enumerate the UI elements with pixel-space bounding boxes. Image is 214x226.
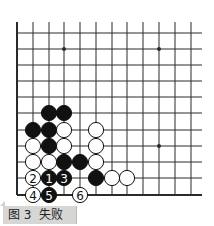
white-stone <box>119 170 134 185</box>
black-stone-move-1: 1 <box>41 170 56 185</box>
black-stone <box>41 105 56 120</box>
star-point <box>157 144 161 148</box>
star-point <box>62 47 66 51</box>
move-number: 1 <box>45 172 53 186</box>
black-stone <box>41 122 56 137</box>
white-stone <box>25 154 40 169</box>
white-stone <box>41 154 56 169</box>
move-number: 2 <box>29 172 37 186</box>
white-stone <box>56 122 71 137</box>
white-stone <box>88 122 103 137</box>
white-stone <box>56 138 71 153</box>
caption-number: 图 3 <box>8 208 31 222</box>
move-number: 4 <box>29 189 37 203</box>
black-stone <box>41 138 56 153</box>
move-number: 3 <box>60 172 68 186</box>
move-number: 6 <box>76 189 84 203</box>
figure-caption: 图 3 失败 <box>3 206 77 224</box>
caption-title: 失败 <box>39 208 63 222</box>
black-stone-move-3: 3 <box>56 170 71 185</box>
white-stone <box>25 138 40 153</box>
black-stone-move-5: 5 <box>41 187 56 202</box>
white-stone <box>104 170 119 185</box>
black-stone <box>56 105 71 120</box>
black-stone <box>56 154 71 169</box>
black-stone <box>88 170 103 185</box>
white-stone <box>88 138 103 153</box>
move-number: 5 <box>45 189 53 203</box>
white-stone-move-6: 6 <box>72 187 87 202</box>
white-stone-move-2: 2 <box>25 170 40 185</box>
black-stone <box>25 122 40 137</box>
star-point <box>157 47 161 51</box>
white-stone-move-4: 4 <box>25 187 40 202</box>
go-board: 213456 <box>0 0 214 205</box>
white-stone <box>88 154 103 169</box>
black-stone <box>72 154 87 169</box>
